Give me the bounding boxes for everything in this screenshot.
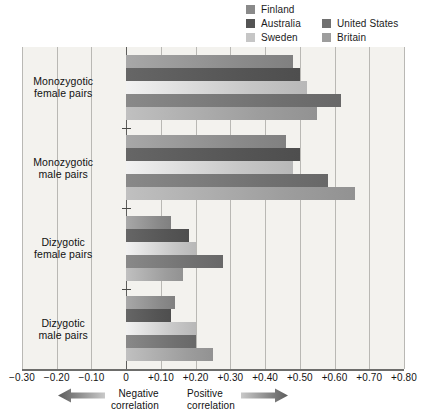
legend-item-united-states: United States — [322, 16, 398, 30]
legend-swatch-sweden — [246, 33, 255, 42]
legend-item-britain: Britain — [322, 30, 398, 44]
legend-label-britain: Britain — [337, 32, 366, 43]
chart-legend: Finland Australia Sweden United States B… — [246, 2, 422, 44]
positive-correlation-caption: Positive correlation — [187, 388, 288, 412]
legend-label-australia: Australia — [261, 18, 301, 29]
category-label-dz-female: Dizygoticfemale pairs — [4, 236, 122, 260]
bar-finland-dz-female — [126, 216, 171, 229]
x-tick-label-neg0p3: −0.30 — [9, 372, 35, 383]
axis-group-tick — [122, 128, 131, 129]
legend-item-finland: Finland — [246, 2, 301, 16]
legend-swatch-finland — [246, 5, 255, 14]
bar-britain-dz-male — [126, 348, 213, 361]
positive-correlation-label: Positive correlation — [187, 388, 235, 412]
axis-group-tick — [122, 289, 131, 290]
x-tick-label-0: 0 — [123, 372, 129, 383]
legend-label-sweden: Sweden — [261, 32, 298, 43]
bar-sweden-mz-female — [126, 81, 307, 94]
plot-area: Monozygoticfemale pairsMonozygoticmale p… — [22, 47, 404, 369]
x-axis-tick-labels: −0.30−0.20−0.100+0.10+0.20+0.30+0.40+0.5… — [0, 372, 422, 388]
legend-label-united-states: United States — [337, 18, 398, 29]
x-tick-label-0p7: +0.70 — [356, 372, 382, 383]
legend-item-australia: Australia — [246, 16, 301, 30]
bar-australia-mz-female — [126, 68, 300, 81]
bar-united-states-dz-male — [126, 335, 195, 348]
legend-swatch-australia — [246, 19, 255, 28]
category-label-mz-female: Monozygoticfemale pairs — [4, 75, 122, 99]
positive-caption-line1: Positive — [187, 388, 223, 399]
negative-caption-line1: Negative — [119, 388, 159, 399]
chart-figure: Finland Australia Sweden United States B… — [0, 0, 422, 417]
bar-united-states-mz-male — [126, 174, 327, 187]
x-tick-label-0p3: +0.30 — [217, 372, 243, 383]
bar-united-states-dz-female — [126, 255, 223, 268]
legend-swatch-britain — [322, 33, 331, 42]
category-label-mz-male: Monozygoticmale pairs — [4, 156, 122, 180]
x-tick-label-neg0p2: −0.20 — [44, 372, 70, 383]
category-label-dz-male: Dizygoticmale pairs — [4, 317, 122, 341]
legend-column-right: United States Britain — [322, 16, 398, 44]
x-tick-label-0p2: +0.20 — [183, 372, 209, 383]
negative-correlation-label: Negative correlation — [111, 388, 159, 412]
bar-britain-mz-female — [126, 107, 317, 120]
bar-australia-dz-female — [126, 229, 189, 242]
bar-australia-dz-male — [126, 309, 171, 322]
bar-britain-dz-female — [126, 268, 183, 281]
bar-finland-mz-female — [126, 55, 293, 68]
bar-finland-dz-male — [126, 296, 175, 309]
bar-sweden-dz-male — [126, 322, 195, 335]
x-tick-label-0p8: +0.80 — [391, 372, 417, 383]
negative-caption-line2: correlation — [111, 400, 159, 412]
x-tick-label-0p4: +0.40 — [252, 372, 278, 383]
axis-group-tick — [122, 208, 131, 209]
bar-britain-mz-male — [126, 187, 355, 200]
negative-correlation-caption: Negative correlation — [58, 388, 159, 412]
positive-caption-line2: correlation — [187, 400, 235, 412]
arrow-left-icon — [58, 388, 106, 403]
legend-swatch-united-states — [322, 19, 331, 28]
x-tick-label-0p5: +0.50 — [287, 372, 313, 383]
legend-item-sweden: Sweden — [246, 30, 301, 44]
axis-direction-captions: Negative correlation Positive correlatio… — [0, 388, 422, 417]
x-tick-label-0p6: +0.60 — [322, 372, 348, 383]
arrow-right-icon — [240, 388, 288, 403]
x-axis-line — [22, 369, 404, 371]
legend-column-left: Finland Australia Sweden — [246, 2, 301, 44]
gridline — [369, 47, 370, 369]
bar-united-states-mz-female — [126, 94, 341, 107]
bar-australia-mz-male — [126, 148, 300, 161]
gridline — [404, 47, 405, 369]
x-tick-label-neg0p1: −0.10 — [79, 372, 105, 383]
bar-finland-mz-male — [126, 135, 286, 148]
bar-sweden-mz-male — [126, 161, 293, 174]
x-tick-label-0p1: +0.10 — [148, 372, 174, 383]
bar-sweden-dz-female — [126, 242, 195, 255]
legend-label-finland: Finland — [261, 4, 295, 15]
